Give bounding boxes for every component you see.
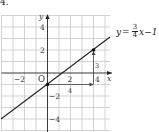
equation-equals: = <box>122 27 130 37</box>
origin-label: O <box>38 74 45 84</box>
graph: −2 2 4 4 2 −2 −4 O x y 4 3 <box>0 0 159 132</box>
x-axis-label: x <box>107 74 112 83</box>
run-arrowhead-icon <box>90 83 94 87</box>
point-4-2 <box>92 48 96 52</box>
y-tick-label: −2 <box>49 92 60 101</box>
y-tick-label: 2 <box>40 46 45 55</box>
x-tick-label: 4 <box>95 75 100 84</box>
equation-rest: x−1 <box>139 27 157 37</box>
equation-fraction: 3 4 <box>132 24 138 39</box>
y-tick-label: 4 <box>40 23 45 32</box>
point-0-neg1 <box>46 83 50 87</box>
fraction-denominator: 4 <box>133 32 137 39</box>
equation-label: y = 3 4 x−1 <box>116 24 157 39</box>
x-tick-label: 2 <box>68 75 73 84</box>
rise-label: 3 <box>95 62 99 70</box>
y-axis-arrow-icon <box>46 14 50 19</box>
equation-lhs: y <box>116 27 121 37</box>
y-tick-label: −4 <box>49 115 60 124</box>
x-tick-label: −2 <box>14 75 25 84</box>
y-axis-label: y <box>38 12 44 21</box>
run-label: 4 <box>68 87 72 95</box>
